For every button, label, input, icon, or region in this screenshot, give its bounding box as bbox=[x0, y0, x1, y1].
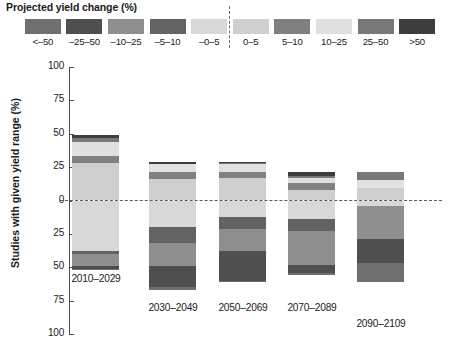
stacked-bar-positive bbox=[72, 135, 119, 200]
legend-swatch-cell bbox=[105, 19, 147, 34]
legend-color-swatch bbox=[399, 19, 435, 34]
bar-segment bbox=[357, 206, 404, 239]
bar-segment bbox=[149, 179, 196, 200]
legend-class-label: >50 bbox=[396, 36, 438, 50]
bar-segment bbox=[357, 239, 404, 263]
bar-segment bbox=[72, 142, 119, 157]
legend-swatch-cell bbox=[147, 19, 189, 34]
legend-color-swatch bbox=[25, 19, 61, 34]
legend-swatch-cell bbox=[272, 19, 314, 34]
legend-color-swatch bbox=[150, 19, 186, 34]
y-axis-tick-mark bbox=[69, 334, 74, 335]
y-axis-tick-mark bbox=[69, 67, 74, 68]
bar-segment bbox=[357, 172, 404, 180]
stacked-bar-positive bbox=[219, 162, 266, 201]
legend-swatch-cell bbox=[355, 19, 397, 34]
stacked-bar-positive bbox=[288, 172, 335, 200]
plot-area: Studies with given yield range (%) 10075… bbox=[0, 58, 449, 352]
legend-swatch-row bbox=[22, 19, 438, 34]
bar-segment bbox=[288, 183, 335, 190]
legend-class-label: 5–10 bbox=[272, 36, 314, 50]
legend-color-swatch bbox=[358, 19, 394, 34]
bar-category-label: 2090–2109 bbox=[321, 318, 441, 329]
legend-swatch-cell bbox=[188, 19, 230, 34]
legend-color-swatch bbox=[274, 19, 310, 34]
figure-root: Projected yield change (%) <–50–25–50–10… bbox=[0, 0, 449, 352]
bar-segment bbox=[149, 287, 196, 290]
stacked-bar-positive bbox=[149, 162, 196, 201]
legend-color-swatch bbox=[191, 19, 227, 34]
bar-segment bbox=[72, 254, 119, 266]
stacked-bar-negative bbox=[288, 201, 335, 276]
bar-segment bbox=[149, 172, 196, 179]
legend-label-row: <–50–25–50–10–25–5–10–0–50–55–1010–2525–… bbox=[22, 36, 438, 50]
legend-class-label: 0–5 bbox=[230, 36, 272, 50]
bar-segment bbox=[288, 265, 335, 273]
legend-color-swatch bbox=[316, 19, 352, 34]
y-axis-tick-label: 0 bbox=[30, 194, 64, 205]
y-axis-tick-label: 100 bbox=[30, 60, 64, 71]
legend-swatch-cell bbox=[64, 19, 106, 34]
bar-segment bbox=[72, 269, 119, 270]
bar-segment bbox=[219, 164, 266, 172]
legend-class-label: –5–10 bbox=[147, 36, 189, 50]
bar-segment bbox=[357, 188, 404, 200]
stacked-bar-negative bbox=[149, 201, 196, 290]
legend-swatch-cell bbox=[22, 19, 64, 34]
bar-segment bbox=[219, 229, 266, 252]
legend-color-swatch bbox=[66, 19, 102, 34]
legend-divider-dashed-line bbox=[229, 6, 230, 48]
bar-segment bbox=[288, 231, 335, 264]
bar-segment bbox=[357, 263, 404, 282]
y-axis-tick-label: 50 bbox=[30, 127, 64, 138]
bar-segment bbox=[288, 190, 335, 201]
bar-segment bbox=[219, 251, 266, 280]
bar-segment bbox=[72, 156, 119, 163]
legend-class-label: <–50 bbox=[22, 36, 64, 50]
y-axis-tick-mark bbox=[69, 301, 74, 302]
bar-segment bbox=[72, 201, 119, 252]
legend-class-label: –10–25 bbox=[105, 36, 147, 50]
y-axis-tick-label: 75 bbox=[30, 294, 64, 305]
y-axis-tick-label: 25 bbox=[30, 227, 64, 238]
stacked-bar-positive bbox=[357, 172, 404, 200]
bar-category-label: 2010–2029 bbox=[36, 273, 156, 284]
legend-swatch-cell bbox=[313, 19, 355, 34]
legend-class-label: 10–25 bbox=[313, 36, 355, 50]
y-axis-tick-mark bbox=[69, 100, 74, 101]
legend-swatch-cell bbox=[396, 19, 438, 34]
stacked-bar-negative bbox=[72, 201, 119, 270]
bar-segment bbox=[149, 243, 196, 266]
bar-category-label: 2070–2089 bbox=[252, 302, 372, 313]
legend: Projected yield change (%) <–50–25–50–10… bbox=[0, 0, 449, 58]
y-axis-tick-label: 50 bbox=[30, 260, 64, 271]
bar-segment bbox=[149, 164, 196, 172]
bar-segment bbox=[149, 266, 196, 287]
bar-segment bbox=[149, 201, 196, 228]
bar-segment bbox=[288, 219, 335, 231]
y-axis-title: Studies with given yield range (%) bbox=[9, 95, 21, 271]
legend-swatch-cell bbox=[230, 19, 272, 34]
legend-class-label: –0–5 bbox=[188, 36, 230, 50]
legend-class-label: 25–50 bbox=[355, 36, 397, 50]
stacked-bar-negative bbox=[357, 201, 404, 282]
legend-color-swatch bbox=[233, 19, 269, 34]
y-axis-tick-label: 25 bbox=[30, 160, 64, 171]
bar-segment bbox=[357, 180, 404, 188]
y-axis-tick-label: 75 bbox=[30, 93, 64, 104]
bar-segment bbox=[288, 201, 335, 220]
bar-segment bbox=[219, 281, 266, 282]
bar-segment bbox=[219, 201, 266, 217]
legend-color-swatch bbox=[108, 19, 144, 34]
legend-class-label: –25–50 bbox=[64, 36, 106, 50]
bar-segment bbox=[219, 217, 266, 229]
bar-segment bbox=[149, 227, 196, 243]
bar-segment bbox=[288, 273, 335, 276]
bar-segment bbox=[219, 178, 266, 201]
legend-title: Projected yield change (%) bbox=[6, 1, 137, 13]
stacked-bar-negative bbox=[219, 201, 266, 282]
y-axis-tick-label: 100 bbox=[30, 327, 64, 338]
bar-segment bbox=[72, 163, 119, 200]
